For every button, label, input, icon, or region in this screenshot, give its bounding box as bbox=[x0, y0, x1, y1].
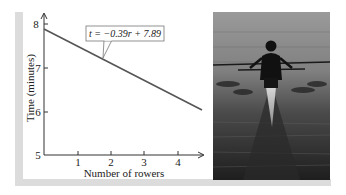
frame-bottom-strip bbox=[15, 179, 331, 186]
x-axis-label: Number of rowers bbox=[84, 167, 165, 179]
equation-label: t = −0.39r + 7.89 bbox=[89, 28, 161, 39]
x-tick-4: 4 bbox=[175, 156, 181, 168]
y-tick-8: 8 bbox=[33, 18, 39, 30]
line-chart: 8 7 6 5 1 2 3 4 Number of rowers Time (m… bbox=[0, 0, 212, 180]
x-tick-1: 1 bbox=[75, 156, 81, 168]
callout-pointer bbox=[103, 40, 112, 58]
rower-photo bbox=[213, 12, 330, 180]
y-axis-label: Time (minutes) bbox=[24, 54, 37, 122]
y-tick-6: 6 bbox=[35, 106, 41, 118]
y-tick-7: 7 bbox=[35, 62, 41, 74]
y-tick-5: 5 bbox=[35, 149, 41, 161]
